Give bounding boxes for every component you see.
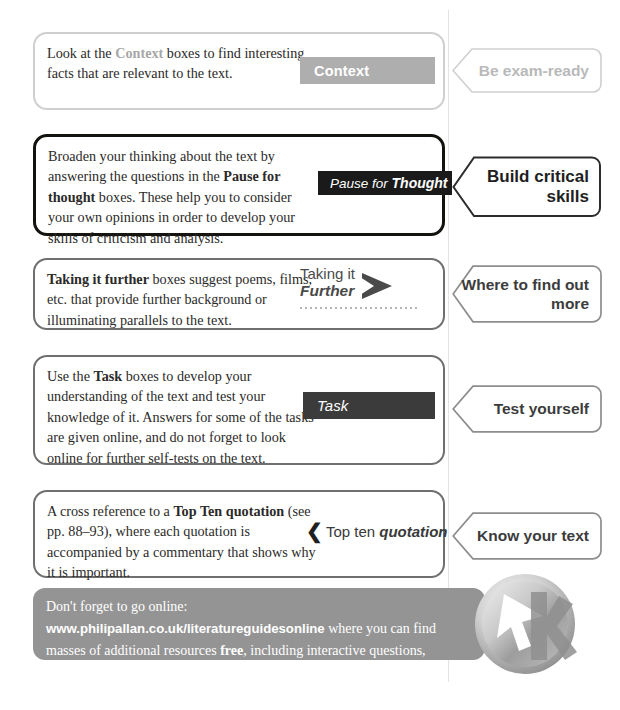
inline-keyword-task: Task bbox=[94, 368, 123, 384]
column-divider bbox=[448, 10, 449, 682]
badge-label-quotation: quotation bbox=[379, 523, 447, 540]
callout-label: Where to find out more bbox=[452, 275, 589, 313]
badge-bar-pause-for-thought: Pause for Thought bbox=[318, 171, 458, 195]
callout-label: Test yourself bbox=[494, 400, 589, 418]
sample-badge-top-ten-quotation: ❮ Top ten quotation bbox=[306, 521, 448, 541]
description-text-task: Use the Task boxes to develop your under… bbox=[47, 366, 319, 468]
callout-label: Build critical skills bbox=[452, 167, 589, 207]
sample-badge-context: Context bbox=[300, 57, 435, 84]
badge-label-thought: Thought bbox=[392, 175, 448, 191]
callout-know-your-text[interactable]: Know your text bbox=[452, 512, 602, 560]
callout-be-exam-ready[interactable]: Be exam-ready bbox=[452, 48, 602, 93]
dotted-rule bbox=[300, 307, 418, 309]
description-text-context: Look at the Context boxes to find intere… bbox=[47, 43, 315, 84]
inline-context-keyword: Context bbox=[115, 45, 163, 61]
description-text-pause-for-thought: Broaden your thinking about the text by … bbox=[48, 146, 320, 248]
badge-label-top-ten: Top ten bbox=[326, 523, 375, 540]
callout-build-critical-skills[interactable]: Build critical skills bbox=[452, 156, 602, 218]
description-text-taking-it-further: Taking it further boxes suggest poems, f… bbox=[47, 269, 325, 330]
callout-test-yourself[interactable]: Test yourself bbox=[452, 385, 602, 433]
badge-label-context: Context bbox=[300, 57, 435, 84]
arrow-right-icon bbox=[362, 273, 392, 299]
inline-keyword-free: free bbox=[220, 643, 243, 658]
chevron-left-icon: ❮ bbox=[306, 521, 323, 541]
sample-badge-task: Task bbox=[303, 392, 435, 419]
online-resources-text: Don't forget to go online: www.philipall… bbox=[46, 596, 466, 684]
description-text-top-ten-quotation: A cross reference to a Top Ten quotation… bbox=[47, 501, 319, 583]
sample-badge-taking-it-further: Taking it Further bbox=[300, 265, 430, 315]
callout-where-to-find-out-more[interactable]: Where to find out more bbox=[452, 265, 602, 323]
badge-label-pause-for: Pause for bbox=[330, 176, 388, 191]
callout-label: Know your text bbox=[477, 527, 589, 545]
inline-keyword-taking-it-further: Taking it further bbox=[47, 271, 149, 287]
inline-keyword-top-ten-quotation: Top Ten quotation bbox=[173, 503, 284, 519]
cursor-logo-icon bbox=[473, 572, 577, 676]
online-resources-url[interactable]: www.philipallan.co.uk/literatureguideson… bbox=[46, 621, 325, 636]
badge-label-task: Task bbox=[303, 392, 435, 419]
philip-allan-cursor-logo bbox=[473, 572, 577, 676]
callout-label: Be exam-ready bbox=[479, 62, 589, 80]
